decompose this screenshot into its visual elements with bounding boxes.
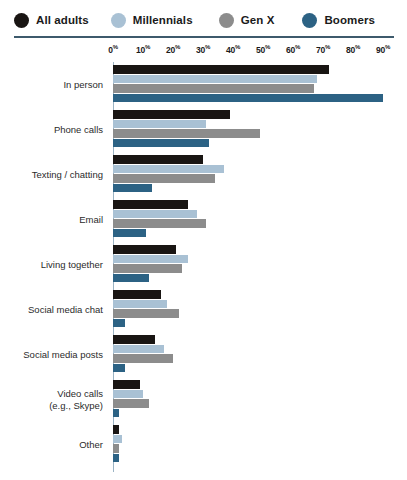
bar-gen-x — [113, 219, 206, 228]
legend-item-all-adults: All adults — [14, 13, 89, 28]
x-tick-label: 60% — [286, 44, 300, 55]
bar-millennials — [113, 390, 143, 399]
circle-swatch-icon — [14, 13, 29, 28]
legend-item-millennials: Millennials — [111, 13, 193, 28]
bar-millennials — [113, 165, 224, 174]
bar-gen-x — [113, 444, 119, 453]
bar-group: Texting / chatting — [0, 152, 407, 197]
bar-group: Phone calls — [0, 107, 407, 152]
bar-all-adults — [113, 245, 176, 254]
bar-millennials — [113, 210, 197, 219]
bar-gen-x — [113, 354, 173, 363]
bar-boomers — [113, 94, 383, 103]
grouped-bar-chart: 0%10%20%30%40%50%60%70%80%90% In personP… — [0, 40, 407, 480]
bar-group: Other — [0, 422, 407, 467]
bar-group: In person — [0, 62, 407, 107]
bar-all-adults — [113, 335, 155, 344]
bar-stack — [113, 200, 403, 239]
x-tick-label: 40% — [226, 44, 240, 55]
category-label: Other — [0, 439, 103, 451]
bar-all-adults — [113, 155, 203, 164]
bar-boomers — [113, 364, 125, 373]
circle-swatch-icon — [111, 13, 126, 28]
bar-stack — [113, 425, 403, 464]
bar-gen-x — [113, 399, 149, 408]
bar-millennials — [113, 120, 206, 129]
x-tick-label: 90% — [376, 44, 390, 55]
bar-stack — [113, 110, 403, 149]
bar-group: Social media chat — [0, 287, 407, 332]
legend-label: Boomers — [324, 14, 375, 26]
bar-millennials — [113, 435, 122, 444]
bar-millennials — [113, 255, 188, 264]
bar-group: Email — [0, 197, 407, 242]
category-label: Social media posts — [0, 349, 103, 361]
bar-boomers — [113, 454, 119, 463]
bar-millennials — [113, 345, 164, 354]
bar-stack — [113, 335, 403, 374]
bar-stack — [113, 290, 403, 329]
x-tick-label: 10% — [136, 44, 150, 55]
bar-millennials — [113, 75, 317, 84]
bar-stack — [113, 380, 403, 419]
bar-boomers — [113, 229, 146, 238]
legend-label: All adults — [36, 14, 89, 26]
bar-boomers — [113, 274, 149, 283]
bar-gen-x — [113, 264, 182, 273]
bar-stack — [113, 65, 403, 104]
legend-item-boomers: Boomers — [302, 13, 375, 28]
bar-all-adults — [113, 110, 230, 119]
legend-divider — [14, 36, 394, 38]
bar-all-adults — [113, 290, 161, 299]
bar-all-adults — [113, 380, 140, 389]
legend-item-gen-x: Gen X — [219, 13, 275, 28]
chart-legend: All adults Millennials Gen X Boomers — [0, 0, 407, 32]
bar-stack — [113, 155, 403, 194]
category-label: Video calls (e.g., Skype) — [0, 388, 103, 412]
bar-group: Video calls (e.g., Skype) — [0, 377, 407, 422]
legend-label: Millennials — [133, 14, 193, 26]
bar-group: Social media posts — [0, 332, 407, 377]
x-tick-label: 0% — [108, 44, 118, 55]
bar-all-adults — [113, 425, 119, 434]
circle-swatch-icon — [302, 13, 317, 28]
legend-label: Gen X — [241, 14, 275, 26]
bar-millennials — [113, 300, 167, 309]
circle-swatch-icon — [219, 13, 234, 28]
bar-all-adults — [113, 65, 329, 74]
category-label: In person — [0, 79, 103, 91]
bar-group: Living together — [0, 242, 407, 287]
bar-gen-x — [113, 309, 179, 318]
bar-gen-x — [113, 84, 314, 93]
bar-gen-x — [113, 129, 260, 138]
x-tick-label: 30% — [196, 44, 210, 55]
x-tick-label: 20% — [166, 44, 180, 55]
bar-gen-x — [113, 174, 215, 183]
category-label: Email — [0, 214, 103, 226]
category-label: Living together — [0, 259, 103, 271]
category-label: Social media chat — [0, 304, 103, 316]
bar-stack — [113, 245, 403, 284]
bar-boomers — [113, 409, 119, 418]
x-axis-tick-labels: 0%10%20%30%40%50%60%70%80%90% — [0, 44, 407, 60]
bar-boomers — [113, 184, 152, 193]
x-tick-label: 70% — [316, 44, 330, 55]
category-label: Texting / chatting — [0, 169, 103, 181]
category-label: Phone calls — [0, 124, 103, 136]
bar-boomers — [113, 319, 125, 328]
plot-area: In personPhone callsTexting / chattingEm… — [0, 62, 407, 480]
bar-boomers — [113, 139, 209, 148]
x-tick-label: 50% — [256, 44, 270, 55]
bar-all-adults — [113, 200, 188, 209]
x-tick-label: 80% — [346, 44, 360, 55]
